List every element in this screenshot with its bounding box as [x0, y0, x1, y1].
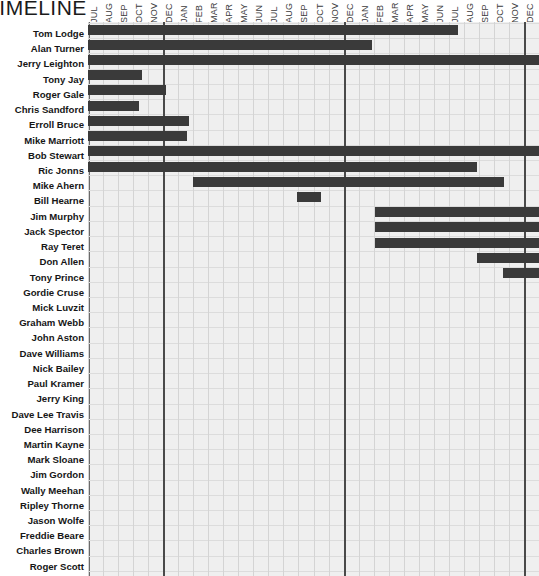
month-gridline	[148, 22, 149, 576]
row-label: Mick Luvzit	[0, 302, 84, 313]
year-divider	[163, 22, 165, 576]
gantt-bar	[88, 25, 458, 35]
row-label: Mike Ahern	[0, 180, 84, 191]
year-divider	[344, 22, 346, 576]
row-label: Don Allen	[0, 256, 84, 267]
month-gridline	[509, 22, 510, 576]
month-gridline	[268, 22, 269, 576]
month-gridline	[223, 22, 224, 576]
month-tick-aug-25: AUG	[465, 3, 475, 23]
month-tick-dec-5: DEC	[164, 3, 174, 23]
row-label: Jim Gordon	[0, 469, 84, 480]
month-gridline	[298, 22, 299, 576]
row-label: Bill Hearne	[0, 195, 84, 206]
row-label: Mark Sloane	[0, 454, 84, 465]
gantt-bar	[88, 85, 166, 95]
row-label: Chris Sandford	[0, 104, 84, 115]
gantt-bar	[88, 70, 142, 80]
month-tick-may-10: MAY	[239, 4, 249, 23]
gantt-bar	[88, 55, 539, 65]
row-label: Jason Wolfe	[0, 515, 84, 526]
gantt-bar	[88, 146, 539, 156]
row-label: Tom Lodge	[0, 28, 84, 39]
month-tick-apr-21: APR	[405, 4, 415, 23]
gantt-bar	[477, 253, 539, 263]
month-tick-sep-2: SEP	[119, 4, 129, 23]
month-tick-nov-16: NOV	[330, 3, 340, 23]
row-label: Bob Stewart	[0, 150, 84, 161]
month-gridline	[329, 22, 330, 576]
row-label: Gordie Cruse	[0, 287, 84, 298]
row-label: Martin Kayne	[0, 439, 84, 450]
month-tick-feb-19: FEB	[375, 5, 385, 23]
month-gridline	[374, 22, 375, 576]
row-label: Jerry King	[0, 393, 84, 404]
row-label: Erroll Bruce	[0, 119, 84, 130]
gantt-bar	[375, 207, 539, 217]
row-label: Roger Scott	[0, 561, 84, 572]
month-tick-sep-14: SEP	[299, 4, 309, 23]
month-gridline	[494, 22, 495, 576]
row-label: Alan Turner	[0, 43, 84, 54]
row-label: Nick Bailey	[0, 363, 84, 374]
month-tick-nov-4: NOV	[149, 3, 159, 23]
month-gridline	[253, 22, 254, 576]
month-tick-feb-7: FEB	[194, 5, 204, 23]
row-label: Ric Jonns	[0, 165, 84, 176]
month-gridline	[419, 22, 420, 576]
month-tick-oct-3: OCT	[134, 3, 144, 23]
month-axis-header: JULAUGSEPOCTNOVDECJANFEBMARAPRMAYJUNJULA…	[88, 0, 539, 22]
page-title: TIMELINE	[0, 0, 87, 20]
row-label: Jack Spector	[0, 226, 84, 237]
month-gridline	[404, 22, 405, 576]
month-tick-jan-18: JAN	[360, 5, 370, 23]
gantt-bar	[88, 162, 477, 172]
gantt-bar	[88, 116, 189, 126]
month-gridline	[464, 22, 465, 576]
month-tick-sep-26: SEP	[480, 4, 490, 23]
gantt-bar	[375, 222, 539, 232]
month-tick-jan-6: JAN	[179, 5, 189, 23]
month-tick-may-22: MAY	[420, 4, 430, 23]
gantt-bar	[503, 268, 539, 278]
timeline-chart: TIMELINE JULAUGSEPOCTNOVDECJANFEBMARAPRM…	[0, 0, 539, 576]
year-divider	[524, 22, 526, 576]
row-label: Paul Kramer	[0, 378, 84, 389]
month-gridline	[238, 22, 239, 576]
row-label: Jerry Leighton	[0, 58, 84, 69]
month-gridline	[359, 22, 360, 576]
month-tick-oct-27: OCT	[495, 3, 505, 23]
month-gridline	[283, 22, 284, 576]
row-label: Roger Gale	[0, 89, 84, 100]
gantt-bar	[88, 131, 187, 141]
month-tick-apr-9: APR	[224, 4, 234, 23]
month-tick-oct-15: OCT	[315, 3, 325, 23]
month-tick-jul-0: JUL	[89, 6, 99, 23]
row-label: Jim Murphy	[0, 211, 84, 222]
month-gridline	[314, 22, 315, 576]
gantt-bar	[88, 40, 372, 50]
row-label: John Aston	[0, 332, 84, 343]
month-tick-dec-29: DEC	[525, 3, 535, 23]
month-tick-jun-23: JUN	[435, 5, 445, 23]
row-label: Ray Teret	[0, 241, 84, 252]
row-label: Tony Jay	[0, 74, 84, 85]
month-tick-mar-20: MAR	[390, 2, 400, 23]
month-tick-jun-11: JUN	[254, 5, 264, 23]
month-tick-nov-28: NOV	[510, 3, 520, 23]
gantt-bar	[88, 101, 139, 111]
row-label: Wally Meehan	[0, 485, 84, 496]
month-tick-jul-12: JUL	[269, 6, 279, 23]
month-gridline	[479, 22, 480, 576]
month-tick-mar-8: MAR	[209, 2, 219, 23]
row-label: Freddie Beare	[0, 530, 84, 541]
month-gridline	[178, 22, 179, 576]
row-label: Dave Williams	[0, 348, 84, 359]
month-gridline	[434, 22, 435, 576]
row-label: Graham Webb	[0, 317, 84, 328]
month-gridline	[389, 22, 390, 576]
month-gridline	[193, 22, 194, 576]
row-label: Ripley Thorne	[0, 500, 84, 511]
row-label: Charles Brown	[0, 545, 84, 556]
month-gridline	[208, 22, 209, 576]
